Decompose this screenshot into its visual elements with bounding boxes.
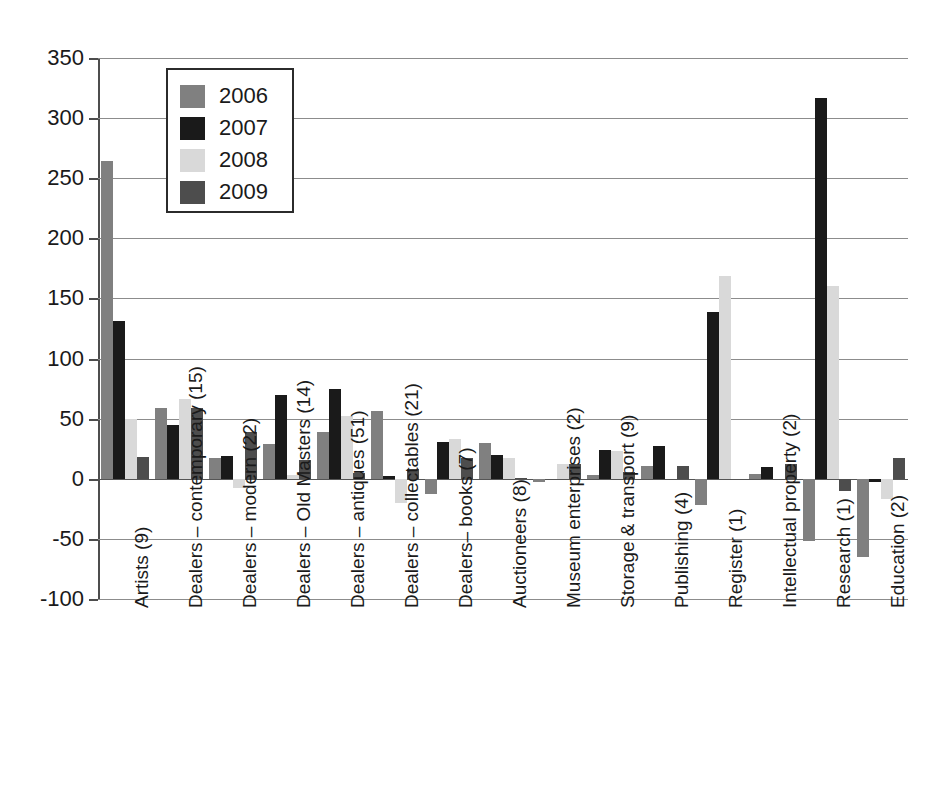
y-tick--100 [89,599,98,601]
bar-2007 [113,321,125,478]
y-tick-label-150: 150 [47,287,84,309]
bar-2008 [827,286,839,478]
y-tick-label-200: 200 [47,227,84,249]
y-tick-label--100: -100 [40,588,84,610]
bar-group [98,58,152,599]
y-tick-label-100: 100 [47,348,84,370]
x-category-label: Auctioneers (8) [510,479,529,608]
y-tick-250 [89,178,98,180]
x-category-label: Dealers– books (7) [456,447,475,608]
y-tick-label--50: -50 [52,528,84,550]
bar-2008 [719,276,731,479]
x-category-label: Storage & transport (9) [618,415,637,608]
y-tick-label-250: 250 [47,167,84,189]
x-category-label: Dealers – antiques (51) [348,411,367,609]
bar-2007 [437,442,449,479]
bar-2006 [695,479,707,505]
y-tick-350 [89,58,98,60]
grouped-bar-chart: 350300250200150100500-50-100 Artists (9)… [0,0,934,794]
x-category-label: Dealers – Old Masters (14) [294,380,313,608]
legend-swatch-2008 [180,149,205,172]
y-tick-label-350: 350 [47,47,84,69]
y-tick-label-0: 0 [72,468,84,490]
bar-2009 [893,458,905,478]
bar-2006 [425,479,437,495]
bar-2007 [275,395,287,479]
x-category-label: Dealers – collectables (21) [402,383,421,608]
legend-label: 2006 [219,85,268,107]
bar-2008 [503,458,515,478]
y-tick-label-50: 50 [60,408,84,430]
y-tick-300 [89,118,98,120]
legend-item-2008: 2008 [180,144,292,176]
x-category-label: Intellectual property (2) [780,414,799,608]
y-axis-tick-labels: 350300250200150100500-50-100 [0,0,84,794]
bar-2007 [599,450,611,479]
y-tick-50 [89,419,98,421]
bar-2006 [479,443,491,479]
bar-2007 [221,456,233,479]
bar-2007 [329,389,341,479]
x-category-label: Research (1) [834,498,853,608]
bar-2006 [533,479,545,483]
x-category-label: Dealers – contemporary (15) [186,366,205,608]
bar-2007 [707,312,719,479]
bar-2006 [803,479,815,542]
bar-2006 [155,408,167,479]
bar-2006 [263,444,275,479]
bar-2007 [167,425,179,479]
bar-2006 [749,474,761,479]
legend-label: 2008 [219,149,268,171]
y-tick-0 [89,479,98,481]
bar-2007 [869,479,881,483]
legend-label: 2007 [219,117,268,139]
bar-2006 [101,161,113,478]
bar-2008 [125,419,137,479]
bar-2009 [677,466,689,479]
x-category-label: Register (1) [726,509,745,608]
y-tick-150 [89,298,98,300]
bar-2006 [641,466,653,479]
bar-2006 [857,479,869,557]
x-category-label: Publishing (4) [672,492,691,608]
legend-swatch-2007 [180,117,205,140]
bar-2009 [137,457,149,479]
legend-item-2006: 2006 [180,80,292,112]
x-category-label: Education (2) [888,495,907,608]
x-category-label: Dealers – modern (22) [240,418,259,608]
legend-label: 2009 [219,181,268,203]
y-tick-100 [89,359,98,361]
bar-2007 [491,455,503,479]
bar-2006 [317,432,329,479]
bar-2009 [839,479,851,491]
chart-legend: 2006200720082009 [166,68,294,213]
legend-swatch-2006 [180,85,205,108]
x-category-label: Artists (9) [132,527,151,608]
bar-2007 [653,446,665,478]
x-category-label: Museum enterprises (2) [564,407,583,608]
bar-2006 [371,411,383,478]
bar-2006 [209,458,221,478]
legend-item-2007: 2007 [180,112,292,144]
legend-swatch-2009 [180,181,205,204]
y-tick--50 [89,539,98,541]
y-tick-label-300: 300 [47,107,84,129]
bar-2007 [383,476,395,478]
bar-2007 [761,467,773,479]
bar-2007 [815,98,827,479]
legend-item-2009: 2009 [180,176,292,208]
bar-2006 [587,475,599,479]
y-tick-200 [89,238,98,240]
